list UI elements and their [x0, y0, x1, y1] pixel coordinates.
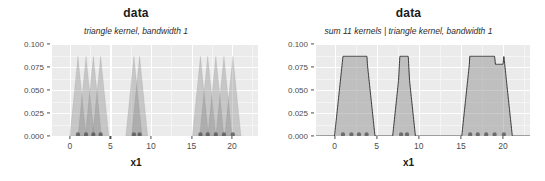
x-tick-label: 0	[332, 141, 337, 151]
x-tick-mark	[376, 136, 377, 139]
y-tick-label: 0.050	[14, 86, 44, 95]
x-tick-label: 20	[227, 141, 236, 151]
kernel-sum-area	[316, 56, 530, 136]
x-tick-label: 20	[498, 141, 507, 151]
y-tick-mark	[47, 112, 50, 113]
x-tick-mark	[191, 136, 192, 139]
x-tick-mark	[334, 136, 335, 139]
y-tick-label: 0.100	[278, 40, 308, 49]
chart-subtitle-left: triangle kernel, bandwidth 1	[0, 26, 272, 36]
y-tick-mark	[47, 89, 50, 90]
y-tick-mark	[311, 66, 314, 67]
chart-panel-right: data sum 11 kernels | triangle kernel, b…	[272, 0, 545, 181]
x-tick-mark	[460, 136, 461, 139]
y-tick-label: 0.075	[14, 63, 44, 72]
plot-area-right	[316, 44, 530, 136]
kernel-sum-curve-right	[316, 44, 530, 136]
panel-background	[316, 44, 530, 136]
y-tick-mark	[47, 135, 50, 136]
chart-title-right: data	[272, 6, 545, 20]
y-tick-label: 0.100	[14, 40, 44, 49]
kernel-curves-left	[52, 44, 258, 136]
y-tick-label: 0.000	[278, 132, 308, 141]
x-tick-mark	[110, 136, 111, 139]
x-axis-title-right: x1	[272, 157, 545, 168]
x-tick-label: 5	[108, 141, 113, 151]
x-tick-mark	[69, 136, 70, 139]
y-tick-label: 0.025	[278, 109, 308, 118]
x-axis-title-left: x1	[0, 157, 272, 168]
y-tick-mark	[47, 43, 50, 44]
chart-subtitle-right: sum 11 kernels | triangle kernel, bandwi…	[272, 26, 545, 36]
y-tick-mark	[311, 112, 314, 113]
y-tick-label: 0.075	[278, 63, 308, 72]
y-tick-label: 0.025	[14, 109, 44, 118]
x-tick-label: 10	[146, 141, 155, 151]
x-tick-label: 0	[67, 141, 72, 151]
x-tick-mark	[232, 136, 233, 139]
x-tick-label: 10	[414, 141, 423, 151]
figure-container: data triangle kernel, bandwidth 1 0.100 …	[0, 0, 545, 181]
y-tick-mark	[311, 135, 314, 136]
chart-title-left: data	[0, 6, 272, 20]
x-tick-mark	[503, 136, 504, 139]
y-tick-mark	[47, 66, 50, 67]
plot-area-left	[52, 44, 258, 136]
x-tick-label: 15	[456, 141, 465, 151]
y-tick-label: 0.000	[14, 132, 44, 141]
y-tick-label: 0.050	[278, 86, 308, 95]
panel-background	[52, 44, 258, 136]
y-tick-mark	[311, 43, 314, 44]
x-tick-mark	[150, 136, 151, 139]
x-tick-label: 5	[374, 141, 379, 151]
y-tick-mark	[311, 89, 314, 90]
x-tick-mark	[418, 136, 419, 139]
x-tick-label: 15	[187, 141, 196, 151]
chart-panel-left: data triangle kernel, bandwidth 1 0.100 …	[0, 0, 272, 181]
